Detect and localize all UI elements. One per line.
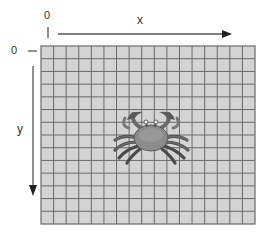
diagram-canvas <box>0 0 266 232</box>
y-axis <box>28 51 37 196</box>
y-axis-arrow-icon <box>29 185 37 196</box>
y-axis-label: y <box>17 123 23 135</box>
x-origin-label: 0 <box>44 10 50 21</box>
x-axis <box>48 27 232 38</box>
x-axis-label: x <box>137 14 143 26</box>
y-origin-label: 0 <box>11 45 17 56</box>
x-axis-arrow-icon <box>222 30 232 38</box>
